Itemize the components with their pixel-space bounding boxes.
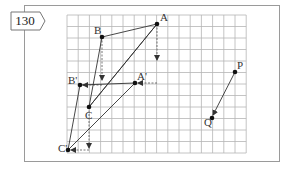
point-A-label: A xyxy=(160,11,168,23)
point-C-prime-label: C' xyxy=(58,142,67,154)
point-A-prime-label: A' xyxy=(137,70,147,82)
point-B-prime xyxy=(78,83,83,88)
point-B-prime-label: B' xyxy=(68,74,77,86)
point-P-label: P xyxy=(237,59,243,71)
point-B-label: B xyxy=(94,24,101,36)
translation-diagram: ABCA'B'C'PQ xyxy=(0,0,290,169)
translation-guides xyxy=(71,24,157,150)
point-Q-label: Q xyxy=(204,116,212,128)
point-C-label: C xyxy=(85,109,92,121)
point-A xyxy=(155,22,160,27)
